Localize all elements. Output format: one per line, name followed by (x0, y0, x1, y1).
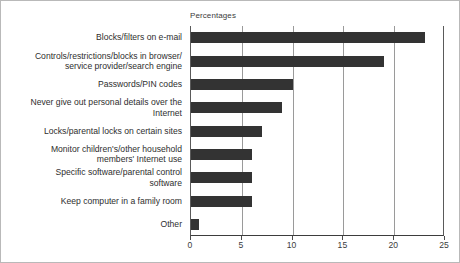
bar-series (191, 26, 443, 235)
bar (191, 56, 384, 67)
tick-label: 25 (439, 240, 449, 250)
chart-canvas: Percentages Blocks/filters on e-mailCont… (4, 4, 456, 259)
bar-row (191, 172, 443, 183)
category-label: Keep computer in a family room (8, 196, 182, 207)
tick-label: 20 (388, 240, 398, 250)
bar-row (191, 126, 443, 137)
category-label: Specific software/parental control softw… (8, 167, 182, 188)
bar (191, 102, 282, 113)
x-axis-tick-labels: 0510152025 (190, 240, 444, 254)
bar (191, 149, 252, 160)
bar-row (191, 79, 443, 90)
chart-figure: Percentages Blocks/filters on e-mailCont… (0, 0, 460, 263)
category-label-list: Blocks/filters on e-mailControls/restric… (8, 26, 186, 236)
axis-note-percentages: Percentages (190, 11, 236, 20)
bar-row (191, 219, 443, 230)
bar (191, 172, 252, 183)
bar (191, 126, 262, 137)
tick-label: 15 (338, 240, 348, 250)
tick-label: 0 (188, 240, 193, 250)
category-label: Controls/restrictions/blocks in browser/… (8, 51, 182, 72)
bar (191, 196, 252, 207)
bar-row (191, 102, 443, 113)
bar (191, 32, 425, 43)
bar-row (191, 32, 443, 43)
bar (191, 79, 293, 90)
bar-row (191, 56, 443, 67)
category-label: Passwords/PIN codes (8, 79, 182, 90)
bar (191, 219, 199, 230)
category-label: Never give out personal details over the… (8, 97, 182, 118)
category-label: Monitor children's/other household membe… (8, 144, 182, 165)
bar-row (191, 196, 443, 207)
bar-row (191, 149, 443, 160)
category-label: Other (8, 219, 182, 230)
category-label: Blocks/filters on e-mail (8, 32, 182, 43)
category-label: Locks/parental locks on certain sites (8, 126, 182, 137)
plot-area (190, 26, 444, 236)
tick-label: 5 (238, 240, 243, 250)
tick-label: 10 (287, 240, 297, 250)
